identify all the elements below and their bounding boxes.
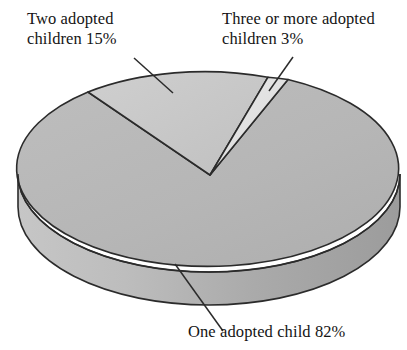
label-two-adopted-children-line1: Two adopted <box>27 9 117 29</box>
label-two-adopted-children-line2: children 15% <box>27 29 117 49</box>
label-one-adopted-child: One adopted child 82% <box>188 322 345 342</box>
label-three-or-more-adopted-children-line2: children 3% <box>222 29 375 49</box>
label-one-adopted-child-line1: One adopted child 82% <box>188 322 345 342</box>
label-three-or-more-adopted-children-line1: Three or more adopted <box>222 9 375 29</box>
label-three-or-more-adopted-children: Three or more adopted children 3% <box>222 9 375 49</box>
label-two-adopted-children: Two adopted children 15% <box>27 9 117 49</box>
pie-chart-figure: Two adopted children 15% Three or more a… <box>0 0 407 350</box>
pie-chart-graphic <box>0 0 407 350</box>
